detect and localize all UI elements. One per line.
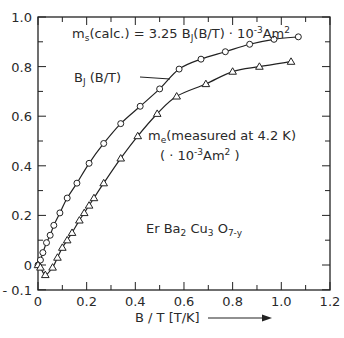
svg-text:B / T [T/K]: B / T [T/K] [135, 310, 200, 325]
y-tick-label: 0.6 [11, 109, 32, 124]
triangle-marker [100, 179, 108, 185]
triangle-marker [54, 254, 62, 260]
circle-marker [101, 140, 107, 146]
circle-marker [47, 232, 53, 238]
x-axis-label: B / T [T/K] [135, 310, 272, 325]
svg-text:Er Ba2 Cu3 O7-y: Er Ba2 Cu3 O7-y [146, 221, 243, 238]
circle-marker [222, 49, 228, 55]
triangle-marker [63, 236, 71, 242]
circle-marker [40, 250, 46, 256]
x-tick-label: 1.2 [320, 294, 341, 309]
circle-marker [74, 180, 80, 186]
brillouin-label: BJ (B/T) [74, 70, 170, 87]
triangle-marker [173, 93, 181, 99]
circle-marker [57, 210, 63, 216]
circle-marker [137, 103, 143, 109]
x-tick-label: 0.6 [174, 294, 195, 309]
x-axis: 00.20.40.60.81.01.2 [34, 17, 340, 309]
circle-marker [295, 34, 301, 40]
triangle-marker [80, 209, 88, 215]
y-tick-label: 1.0 [11, 10, 32, 25]
series-line [38, 62, 291, 275]
circle-marker [118, 121, 124, 127]
circle-marker [86, 160, 92, 166]
y-tick-label: - 0.1 [3, 283, 33, 298]
x-tick-label: 0.8 [222, 294, 243, 309]
circle-marker [64, 195, 70, 201]
triangle-marker [287, 58, 295, 64]
svg-text:BJ (B/T): BJ (B/T) [74, 70, 121, 87]
y-tick-label: 0.2 [11, 208, 32, 223]
svg-text:( · 10-3Am2 ): ( · 10-3Am2 ) [160, 147, 240, 163]
circle-marker [247, 41, 253, 47]
circle-marker [198, 56, 204, 62]
y-tick-label: 0 [24, 258, 32, 273]
compound-label: Er Ba2 Cu3 O7-y [146, 221, 243, 238]
svg-text:ms(calc.) = 3.25 BJ(B/T) · 10-: ms(calc.) = 3.25 BJ(B/T) · 10-3Am2 [72, 25, 290, 43]
triangle-marker [76, 217, 84, 223]
y-tick-label: 0.4 [11, 159, 32, 174]
y-tick-label: 0.8 [11, 60, 32, 75]
triangle-marker [49, 264, 57, 270]
triangle-marker [68, 229, 76, 235]
measured-label: me(measured at 4.2 K) ( · 10-3Am2 ) [148, 128, 296, 163]
chart-container: - 0.100.20.40.60.81.0 00.20.40.60.81.01.… [0, 0, 344, 338]
circle-marker [44, 240, 50, 246]
formula-annotation: ms(calc.) = 3.25 BJ(B/T) · 10-3Am2 [72, 25, 290, 43]
x-tick-label: 0.2 [76, 294, 97, 309]
circle-marker [176, 66, 182, 72]
circle-marker [157, 86, 163, 92]
triangle-marker [90, 194, 98, 200]
x-tick-label: 0.4 [125, 294, 146, 309]
x-tick-label: 1.0 [271, 294, 292, 309]
svg-text:me(measured at 4.2 K): me(measured at 4.2 K) [148, 128, 296, 145]
triangle-marker [59, 244, 67, 250]
x-tick-label: 0 [34, 294, 42, 309]
triangle-marker [85, 202, 93, 208]
line-chart: - 0.100.20.40.60.81.0 00.20.40.60.81.01.… [0, 0, 344, 338]
circle-marker [51, 222, 57, 228]
